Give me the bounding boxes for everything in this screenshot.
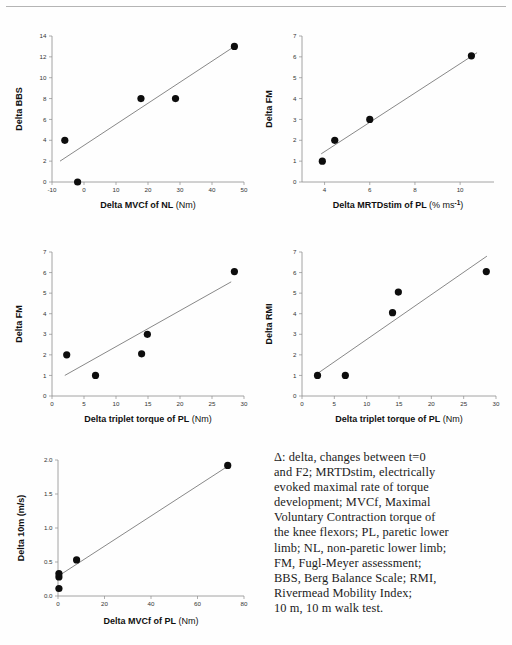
caption-line: limb; NL, non-paretic lower limb; [274, 541, 506, 556]
y-axis-title: Delta RMI [264, 303, 274, 344]
y-tick-label: 0 [43, 178, 47, 185]
data-point [395, 289, 402, 296]
data-point [366, 116, 373, 123]
x-tick-label: 6 [368, 186, 372, 193]
data-point [63, 351, 70, 358]
scatter-plot-fm-mrtd: 0123456746810Delta MRTDstim of PL (% ms-… [258, 22, 508, 234]
regression-line [58, 465, 230, 577]
data-point [172, 95, 179, 102]
y-tick-label: 1.0 [44, 524, 53, 531]
y-tick-label: 3 [293, 116, 297, 123]
x-tick-label: 25 [460, 400, 467, 407]
data-point [224, 462, 231, 469]
x-tick-label: 10 [457, 186, 464, 193]
figure-caption: Δ: delta, changes between t=0and F2; MRT… [274, 450, 506, 616]
caption-line: BBS, Berg Balance Scale; RMI, [274, 571, 506, 586]
x-tick-label: 30 [177, 186, 184, 193]
caption-line: the knee flexors; PL, paretic lower [274, 525, 506, 540]
y-tick-label: 4 [43, 310, 47, 317]
x-tick-label: 15 [145, 400, 152, 407]
x-tick-label: -10 [48, 186, 58, 193]
y-tick-label: 7 [43, 248, 47, 255]
y-tick-label: 3 [43, 330, 47, 337]
data-point [389, 309, 396, 316]
data-point [483, 268, 490, 275]
y-tick-label: 2 [43, 157, 47, 164]
x-axis-title: Delta triplet torque of PL (Nm) [335, 414, 462, 424]
x-tick-label: 10 [113, 186, 120, 193]
y-tick-label: 1 [293, 157, 297, 164]
y-axis-title: Delta 10m (m/s) [16, 495, 26, 562]
y-tick-label: 4 [293, 95, 297, 102]
y-tick-label: 5 [293, 289, 297, 296]
y-axis-title: Delta FM [264, 90, 274, 128]
y-tick-label: 3 [293, 330, 297, 337]
y-tick-label: 0.5 [44, 558, 53, 565]
panel-fm-vs-mrtdstim-pl: 0123456746810Delta MRTDstim of PL (% ms-… [258, 22, 508, 234]
y-tick-label: 6 [43, 269, 47, 276]
data-point [55, 570, 62, 577]
y-tick-label: 10 [40, 74, 47, 81]
caption-line: Voluntary Contraction torque of [274, 510, 506, 525]
x-tick-label: 0 [56, 600, 60, 607]
data-point [144, 331, 151, 338]
y-tick-label: 8 [43, 95, 47, 102]
y-tick-label: 2 [293, 136, 297, 143]
data-point [138, 350, 145, 357]
data-point [331, 137, 338, 144]
caption-line: and F2; MRTDstim, electrically [274, 465, 506, 480]
y-tick-label: 5 [293, 74, 297, 81]
y-tick-label: 1.5 [44, 490, 53, 497]
data-point [61, 137, 68, 144]
scatter-plot-bbs: 02468101214-1001020304050Delta MVCf of N… [6, 22, 256, 234]
x-tick-label: 0 [50, 400, 54, 407]
y-tick-label: 0.0 [44, 592, 53, 599]
top-divider-rule [6, 6, 506, 7]
y-tick-label: 6 [293, 269, 297, 276]
data-point [319, 158, 326, 165]
regression-line [65, 282, 231, 376]
y-tick-label: 2 [43, 351, 47, 358]
x-axis-title: Delta MRTDstim of PL (% ms-1) [333, 199, 464, 210]
y-tick-label: 6 [293, 53, 297, 60]
x-tick-label: 40 [209, 186, 216, 193]
panel-10m-vs-mvcf-pl: 0.00.51.01.52.0020406080Delta MVCf of PL… [6, 448, 256, 643]
data-point [73, 556, 80, 563]
x-tick-label: 25 [209, 400, 216, 407]
panel-bbs-vs-mvcf-nl: 02468101214-1001020304050Delta MVCf of N… [6, 22, 256, 234]
y-axis-title: Delta BBS [14, 87, 24, 131]
x-tick-label: 80 [241, 600, 248, 607]
data-point [314, 372, 321, 379]
scatter-plot-rmi-triplet: 01234567051015202530Delta triplet torque… [258, 240, 508, 445]
data-point [342, 372, 349, 379]
data-point [55, 585, 62, 592]
x-tick-label: 60 [194, 600, 201, 607]
y-tick-label: 14 [40, 32, 47, 39]
x-tick-label: 0 [300, 400, 304, 407]
caption-line: Δ: delta, changes between t=0 [274, 450, 506, 465]
x-tick-label: 40 [148, 600, 155, 607]
data-point [231, 43, 238, 50]
y-tick-label: 6 [43, 116, 47, 123]
y-tick-label: 0 [293, 392, 297, 399]
y-tick-label: 4 [293, 310, 297, 317]
x-tick-label: 30 [493, 400, 500, 407]
x-tick-label: 20 [145, 186, 152, 193]
caption-line: evoked maximal rate of torque [274, 480, 506, 495]
figure-page: 02468101214-1001020304050Delta MVCf of N… [0, 0, 512, 645]
regression-line [60, 45, 236, 161]
data-point [74, 178, 81, 185]
regression-line [316, 256, 487, 374]
caption-line: 10 m, 10 m walk test. [274, 601, 506, 616]
x-axis-title: Delta MVCf of NL (Nm) [100, 200, 195, 210]
y-tick-label: 2.0 [44, 456, 53, 463]
y-tick-label: 0 [293, 178, 297, 185]
y-tick-label: 4 [43, 136, 47, 143]
x-tick-label: 8 [413, 186, 417, 193]
y-tick-label: 7 [293, 248, 297, 255]
data-point [468, 52, 475, 59]
x-tick-label: 0 [82, 186, 86, 193]
data-point [137, 95, 144, 102]
caption-line: Rivermead Mobility Index; [274, 586, 506, 601]
x-tick-label: 20 [101, 600, 108, 607]
